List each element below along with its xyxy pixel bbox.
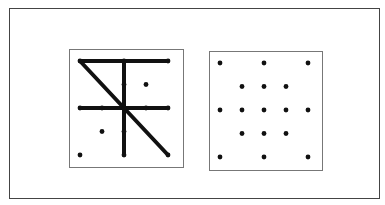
grid-dot: [262, 131, 267, 136]
dot-pattern-drawing: [0, 0, 385, 205]
grid-dot: [240, 108, 245, 113]
grid-dot: [100, 129, 105, 134]
grid-dot: [166, 153, 171, 158]
grid-dot: [122, 82, 127, 87]
grid-dot: [78, 153, 83, 158]
grid-dot: [262, 155, 267, 160]
grid-dot: [218, 155, 223, 160]
grid-dot: [284, 131, 289, 136]
grid-dot: [306, 61, 311, 66]
grid-dot: [262, 84, 267, 89]
grid-dot: [306, 155, 311, 160]
grid-dot: [122, 59, 127, 64]
grid-dot: [166, 106, 171, 111]
grid-dot: [218, 108, 223, 113]
grid-dot: [262, 108, 267, 113]
grid-dot: [78, 106, 83, 111]
grid-dot: [218, 61, 223, 66]
grid-dot: [284, 108, 289, 113]
grid-dot: [144, 82, 149, 87]
grid-dot: [284, 84, 289, 89]
grid-dot: [78, 59, 83, 64]
grid-dot: [100, 106, 105, 111]
grid-dot: [122, 129, 127, 134]
grid-dot: [240, 131, 245, 136]
grid-dot: [262, 61, 267, 66]
grid-dot: [166, 59, 171, 64]
grid-dot: [122, 106, 127, 111]
grid-dot: [240, 84, 245, 89]
grid-dot: [122, 153, 127, 158]
grid-dot: [306, 108, 311, 113]
grid-dot: [144, 106, 149, 111]
